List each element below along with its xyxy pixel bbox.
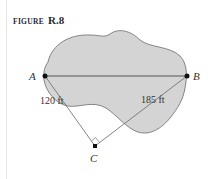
label-BC-length: 185 ft bbox=[141, 94, 165, 105]
point-B bbox=[185, 74, 190, 79]
label-A: A bbox=[28, 70, 36, 82]
label-B: B bbox=[193, 70, 200, 82]
right-angle-marker bbox=[92, 138, 100, 143]
point-C bbox=[93, 144, 97, 148]
label-AC-length: 120 ft bbox=[40, 95, 64, 106]
diagram: A B C 120 ft 185 ft bbox=[0, 0, 208, 179]
irregular-region bbox=[44, 31, 187, 133]
point-A bbox=[43, 74, 48, 79]
label-C: C bbox=[90, 152, 98, 164]
